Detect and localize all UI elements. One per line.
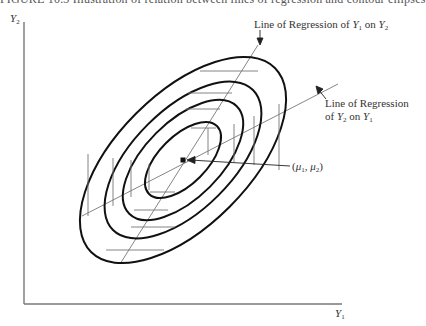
label-text: Line of Regression of — [254, 18, 352, 30]
y-axis-label: Y2 — [10, 12, 20, 29]
label-text: on — [362, 18, 379, 30]
y-axis-label-sub: 2 — [16, 18, 20, 26]
label-text: of — [325, 110, 337, 122]
label-sub: 2 — [385, 24, 389, 32]
arrow-mean — [190, 160, 290, 166]
label-text: ) — [319, 160, 323, 172]
arrowhead-y1-on-y2 — [257, 38, 263, 45]
regression-line-y1-on-y2 — [120, 45, 258, 264]
label-line-2: of Y2 on Y1 — [325, 110, 409, 127]
mean-point-marker — [181, 158, 186, 163]
label-mean-point: (μ1, μ2) — [292, 160, 323, 177]
label-sub: 1 — [369, 116, 373, 124]
arrowhead-mean — [187, 157, 195, 164]
label-regression-y2-on-y1: Line of Regression of Y2 on Y1 — [325, 97, 409, 127]
arrowhead-y2-on-y1 — [316, 86, 323, 94]
regression-lines — [82, 45, 338, 264]
label-text: Line of Regression — [325, 97, 409, 110]
label-text: on — [347, 110, 364, 122]
x-axis-label-sub: 1 — [341, 313, 345, 321]
x-axis-label: Y1 — [335, 307, 345, 324]
regression-line-y2-on-y1 — [82, 84, 338, 216]
label-regression-y1-on-y2: Line of Regression of Y1 on Y2 — [254, 18, 388, 35]
